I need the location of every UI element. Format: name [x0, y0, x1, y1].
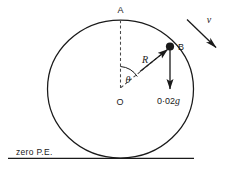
- label-angle-theta: θ: [126, 74, 131, 85]
- label-point-a: A: [117, 5, 123, 15]
- velocity-vector-arrow: [187, 20, 216, 48]
- label-velocity-v: v: [207, 14, 212, 25]
- weight-magnitude: 0·02: [157, 96, 175, 106]
- label-radius-r: R: [141, 54, 148, 65]
- label-point-b: B: [178, 42, 184, 52]
- label-zero-pe: zero P.E.: [16, 147, 53, 157]
- circular-track: [48, 20, 194, 158]
- particle-dot: [166, 42, 174, 50]
- circular-motion-diagram: A B O R θ v 0·02g zero P.E.: [0, 0, 230, 179]
- label-weight-force: 0·02g: [157, 95, 180, 106]
- weight-gravity-symbol: g: [175, 95, 180, 106]
- figure-container: A B O R θ v 0·02g zero P.E.: [0, 0, 230, 179]
- label-point-o: O: [116, 97, 123, 107]
